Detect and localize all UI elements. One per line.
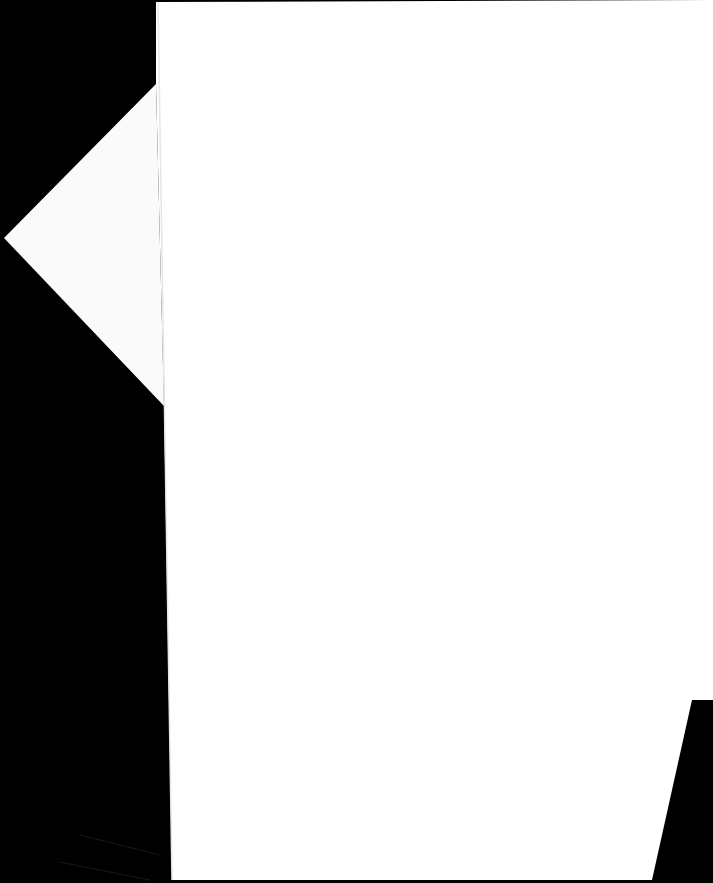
photo-scene — [0, 0, 713, 883]
blank-paper-sheet — [156, 0, 713, 880]
background-streak — [60, 862, 150, 880]
paper-shapes — [0, 0, 713, 883]
background-streak — [80, 835, 160, 855]
paper-flap — [4, 84, 164, 406]
